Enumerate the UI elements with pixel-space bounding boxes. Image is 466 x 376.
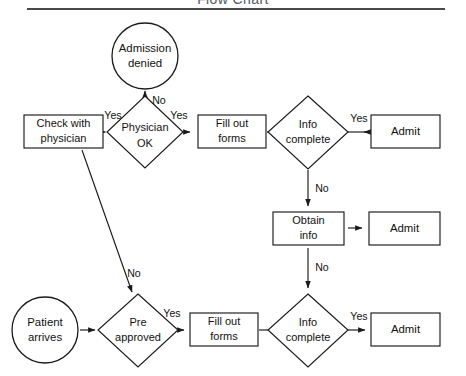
admission-denied-label-line2: denied [128, 57, 162, 69]
edge-label-info-to-obtain: No [315, 182, 329, 194]
info-complete-top-label-line2: complete [286, 133, 331, 145]
edge-label-preapproved-to-forms: Yes [163, 307, 180, 319]
edge-label-physician-to-denied: No [152, 94, 166, 106]
patient-arrives-label-line1: Patient [27, 316, 63, 328]
admit-bottom-label: Admit [391, 323, 421, 335]
node-physician-ok[interactable]: Physician OK [107, 96, 183, 168]
node-check-with-physician[interactable]: Check with physician [24, 115, 103, 148]
info-complete-bottom-label-line1: Info [299, 316, 317, 328]
obtain-info-label-line1: Obtain [292, 214, 324, 226]
edge-label-info-bottom-to-admit: Yes [350, 310, 367, 322]
info-complete-bottom-label-line2: complete [286, 331, 331, 343]
fill-out-forms-bottom-label-line2: forms [210, 330, 238, 342]
fill-out-forms-top-label-line1: Fill out [216, 117, 248, 129]
pre-approved-label-line2: approved [115, 331, 161, 343]
node-fill-out-forms-top[interactable]: Fill out forms [198, 115, 266, 148]
check-with-physician-label-line1: Check with [37, 117, 91, 129]
admit-middle-label: Admit [390, 222, 420, 234]
node-admission-denied[interactable]: Admission denied [112, 23, 178, 89]
physician-ok-label-line1: Physician [121, 121, 168, 133]
patient-arrives-shape [12, 297, 78, 363]
fill-out-forms-bottom-label-line1: Fill out [208, 315, 240, 327]
fill-out-forms-top-label-line2: forms [218, 132, 246, 144]
node-admit-bottom[interactable]: Admit [371, 313, 440, 346]
node-patient-arrives[interactable]: Patient arrives [12, 297, 78, 363]
edge-label-check-to-physician: Yes [104, 109, 121, 121]
node-pre-approved[interactable]: Pre approved [98, 294, 178, 367]
node-admit-top[interactable]: Admit [371, 115, 440, 148]
edge-label-physician-to-forms: Yes [170, 109, 187, 121]
node-info-complete-top[interactable]: Info complete [268, 96, 348, 169]
admission-denied-shape [112, 23, 178, 89]
obtain-info-label-line2: info [300, 229, 318, 241]
flowchart-canvas: Admission denied Check with physician Ph… [0, 0, 466, 376]
node-obtain-info[interactable]: Obtain info [273, 212, 344, 245]
edge-label-obtain-to-info-bottom: No [315, 261, 329, 273]
pre-approved-label-line1: Pre [129, 316, 146, 328]
edge-check-to-preapproved [82, 150, 132, 292]
physician-ok-label-line2: OK [137, 137, 154, 149]
edge-label-check-to-preapproved: No [127, 267, 141, 279]
patient-arrives-label-line2: arrives [28, 331, 62, 343]
node-admit-middle[interactable]: Admit [369, 212, 440, 245]
node-info-complete-bottom[interactable]: Info complete [268, 294, 348, 367]
check-with-physician-label-line2: physician [41, 132, 87, 144]
flowchart-page: Flow Chart [0, 0, 466, 376]
info-complete-top-label-line1: Info [299, 118, 317, 130]
node-fill-out-forms-bottom[interactable]: Fill out forms [190, 313, 258, 346]
admission-denied-label-line1: Admission [119, 42, 172, 54]
admit-top-label: Admit [391, 125, 421, 137]
edge-label-info-to-admit: Yes [350, 112, 367, 124]
